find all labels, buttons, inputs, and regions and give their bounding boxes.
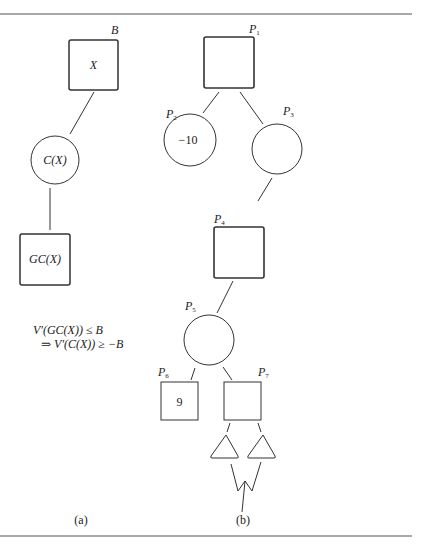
- node-p4: [214, 227, 264, 278]
- node-p5: [184, 315, 234, 365]
- node-label-p7: P7: [257, 365, 269, 380]
- panel-a: B X C(X) GC(X) V′(GC(X)) ≤ B ⇒ V′(C(X)) …: [20, 23, 124, 527]
- edge-p7-tri-left: [227, 423, 230, 432]
- subtree-triangle-left-icon: [211, 435, 239, 458]
- node-p1: [204, 37, 254, 88]
- node-p3: [252, 124, 302, 174]
- node-label-p4: P4: [213, 212, 225, 227]
- node-value-p6: 9: [177, 395, 183, 409]
- edge-x-cx: [70, 92, 94, 134]
- node-label-p5: P5: [184, 299, 196, 314]
- node-content-gcx: GC(X): [29, 252, 61, 266]
- edge-p3-p4: [258, 178, 272, 201]
- node-content-cx: C(X): [43, 153, 66, 167]
- node-label-p1: P1: [248, 22, 260, 37]
- node-label-p2: P2: [165, 107, 177, 122]
- edge-p4-p5: [217, 281, 233, 313]
- edge-p5-p6: [191, 368, 195, 380]
- panel-b: P1 P2 −10 P3 P4 P5 P6 9 P7 (b): [157, 22, 302, 527]
- edge-p1-p3: [240, 92, 263, 124]
- edge-p5-p7: [223, 367, 232, 380]
- transposition-pointer: [231, 462, 261, 491]
- node-p7: [224, 382, 261, 420]
- subtree-triangle-right-icon: [248, 435, 276, 458]
- node-content-x: X: [89, 58, 98, 72]
- pointer-stem: [242, 481, 245, 512]
- edge-p1-p2: [203, 92, 219, 113]
- caption-a: (a): [74, 513, 87, 527]
- node-label-p3: P3: [282, 104, 294, 119]
- node-value-p2: −10: [179, 133, 198, 147]
- node-label-b: B: [111, 23, 119, 37]
- node-label-p6: P6: [157, 365, 169, 380]
- game-tree-figure: B X C(X) GC(X) V′(GC(X)) ≤ B ⇒ V′(C(X)) …: [0, 0, 422, 545]
- equation-line-2: ⇒ V′(C(X)) ≥ −B: [41, 337, 124, 351]
- caption-b: (b): [236, 513, 250, 527]
- edge-p7-tri-right: [258, 423, 261, 432]
- equation-line-1: V′(GC(X)) ≤ B: [33, 323, 104, 337]
